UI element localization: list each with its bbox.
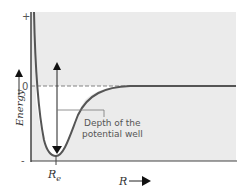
potential-well-diagram: Depth of the potential well + 0 - Energy… — [0, 0, 248, 191]
annotation-line1: Depth of the — [84, 118, 141, 128]
y-tick-minus: - — [21, 155, 25, 166]
energy-arrow-icon — [15, 69, 23, 77]
x-axis-label: R — [118, 175, 127, 188]
y-axis-label: Energy — [14, 89, 25, 127]
r-arrow-icon — [142, 176, 151, 186]
y-tick-plus: + — [22, 11, 30, 22]
annotation-line2: potential well — [82, 129, 143, 139]
re-label: Re — [47, 168, 61, 183]
